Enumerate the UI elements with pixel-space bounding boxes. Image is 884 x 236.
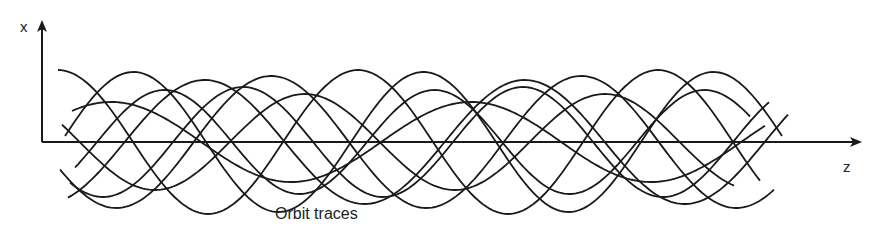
x-axis-label: x — [20, 18, 28, 35]
caption-orbit-traces: Orbit traces — [275, 205, 358, 223]
z-axis-label: z — [843, 158, 851, 175]
orbit-traces-diagram — [0, 0, 884, 236]
